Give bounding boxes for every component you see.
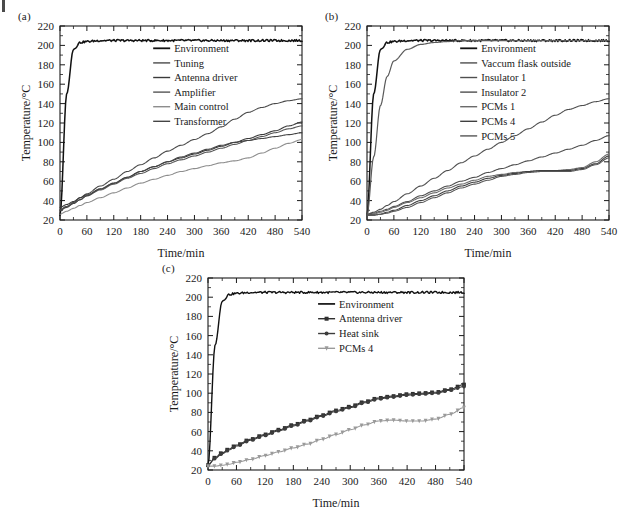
data-point xyxy=(347,406,351,410)
y-tick-label: 120 xyxy=(38,117,55,129)
series-markers xyxy=(206,385,466,468)
data-point xyxy=(417,392,421,396)
data-point xyxy=(296,423,300,427)
legend-label: Antenna driver xyxy=(174,72,238,83)
y-tick-label: 20 xyxy=(350,214,362,226)
y-tick-label: 140 xyxy=(345,98,362,110)
y-tick-label: 220 xyxy=(38,20,55,32)
panel-c-svg: 0601201802403003604204805402040608010012… xyxy=(150,262,480,510)
legend-label: PCMs 4 xyxy=(339,343,374,354)
y-tick-label: 40 xyxy=(350,195,362,207)
x-tick-label: 0 xyxy=(205,475,211,487)
data-point xyxy=(405,393,409,397)
x-tick-label: 0 xyxy=(364,225,370,237)
series-group xyxy=(206,291,466,468)
legend-label: Vaccum flask outside xyxy=(481,58,571,69)
data-point xyxy=(366,400,370,404)
data-point xyxy=(219,452,223,456)
legend-label: Main control xyxy=(174,101,229,112)
legend-label: PCMs 1 xyxy=(481,101,515,112)
y-tick-label: 40 xyxy=(43,195,55,207)
series-line-antenna-driver xyxy=(60,122,302,207)
data-point xyxy=(289,424,293,428)
x-tick-label: 120 xyxy=(413,225,430,237)
legend-label: Antenna driver xyxy=(339,313,403,324)
x-tick-label: 540 xyxy=(456,475,473,487)
x-tick-label: 240 xyxy=(466,225,483,237)
x-tick-label: 540 xyxy=(294,225,311,237)
legend: EnvironmentVaccum flask outsideInsulator… xyxy=(460,43,571,142)
y-tick-label: 20 xyxy=(43,214,55,226)
data-point xyxy=(238,443,242,447)
legend-marker xyxy=(325,317,329,321)
x-tick-label: 60 xyxy=(81,225,93,237)
series-line-antenna-driver xyxy=(208,385,464,466)
data-point xyxy=(341,408,345,412)
data-point xyxy=(456,409,460,413)
x-tick-label: 420 xyxy=(399,475,416,487)
page-edge-mark xyxy=(2,0,5,12)
x-tick-label: 240 xyxy=(159,225,176,237)
data-point xyxy=(245,440,249,444)
y-axis-title: Temperature/°C xyxy=(326,85,340,162)
data-point xyxy=(360,401,364,405)
data-point xyxy=(456,386,460,390)
panel-c-plot-area: 0601201802403003604204805402040608010012… xyxy=(150,262,480,510)
y-tick-label: 140 xyxy=(186,349,203,361)
y-axis-title: Temperature/°C xyxy=(167,336,181,413)
data-point xyxy=(277,429,281,433)
x-tick-label: 480 xyxy=(267,225,284,237)
series-line-insulator-2 xyxy=(367,136,609,215)
y-tick-label: 60 xyxy=(191,426,203,438)
data-point xyxy=(270,431,274,435)
legend-label: Amplifier xyxy=(174,87,216,98)
y-tick-label: 180 xyxy=(38,59,55,71)
y-tick-label: 120 xyxy=(345,117,362,129)
x-tick-label: 300 xyxy=(342,475,359,487)
y-tick-label: 100 xyxy=(345,136,362,148)
x-axis-title: Time/min xyxy=(158,246,205,260)
legend-label: Tuning xyxy=(174,58,205,69)
legend-label: Transformer xyxy=(174,116,227,127)
x-tick-label: 240 xyxy=(314,475,331,487)
series-markers xyxy=(206,383,466,467)
y-tick-label: 60 xyxy=(350,175,362,187)
y-tick-label: 120 xyxy=(186,368,203,380)
x-tick-label: 360 xyxy=(213,225,230,237)
y-tick-label: 140 xyxy=(38,98,55,110)
x-tick-label: 420 xyxy=(547,225,564,237)
data-point xyxy=(411,393,415,397)
x-tick-label: 540 xyxy=(601,225,618,237)
data-point xyxy=(225,449,229,453)
data-point xyxy=(424,392,428,396)
data-point xyxy=(462,385,466,389)
x-axis-title: Time/min xyxy=(313,496,360,510)
data-point xyxy=(213,457,217,461)
x-tick-label: 480 xyxy=(427,475,444,487)
x-tick-label: 0 xyxy=(57,225,63,237)
series-line-main-control xyxy=(60,139,302,214)
legend-label: Environment xyxy=(481,43,536,54)
data-point xyxy=(430,391,434,395)
y-tick-label: 80 xyxy=(43,156,55,168)
chart-panel-b: (b) 060120180240300360420480540204060801… xyxy=(313,10,618,260)
legend-label: Environment xyxy=(339,299,394,310)
data-point xyxy=(283,427,287,431)
data-point xyxy=(251,438,255,442)
y-tick-label: 200 xyxy=(345,39,362,51)
y-tick-label: 20 xyxy=(191,464,203,476)
data-point xyxy=(257,435,261,439)
y-tick-label: 40 xyxy=(191,445,203,457)
y-tick-label: 100 xyxy=(38,136,55,148)
data-point xyxy=(373,398,377,402)
legend-label: Heat sink xyxy=(339,328,380,339)
x-tick-label: 180 xyxy=(132,225,149,237)
data-point xyxy=(392,395,396,399)
legend-marker xyxy=(325,332,329,336)
legend-label: PCMs 4 xyxy=(481,116,516,127)
series-line-pcms-4 xyxy=(367,156,609,215)
x-tick-label: 120 xyxy=(257,475,274,487)
x-tick-label: 360 xyxy=(370,475,387,487)
y-tick-label: 160 xyxy=(38,78,55,90)
y-tick-label: 80 xyxy=(350,156,362,168)
